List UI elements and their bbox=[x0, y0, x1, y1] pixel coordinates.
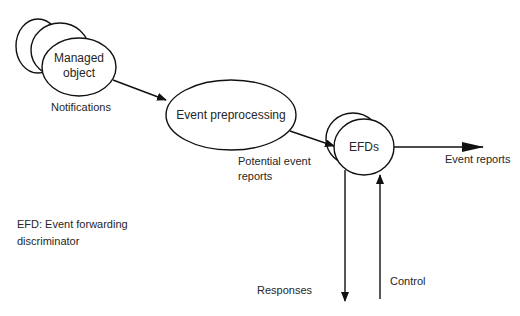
responses-label: Responses bbox=[257, 283, 312, 298]
legend: EFD: Event forwarding discriminator bbox=[17, 216, 128, 250]
potential-event-reports-line1: Potential event bbox=[238, 154, 311, 169]
legend-line1: EFD: Event forwarding bbox=[17, 216, 128, 233]
potential-event-reports-label: Potential event reports bbox=[238, 154, 311, 184]
legend-line2: discriminator bbox=[17, 233, 128, 250]
event-reports-label: Event reports bbox=[445, 152, 510, 167]
control-label: Control bbox=[390, 274, 425, 289]
managed-object-label-line2: object bbox=[48, 66, 110, 81]
managed-object-label: Managed object bbox=[48, 51, 110, 81]
notifications-arrow bbox=[113, 80, 166, 100]
managed-object-label-line1: Managed bbox=[48, 51, 110, 66]
efds-label: EFDs bbox=[344, 140, 384, 155]
potential-event-reports-line2: reports bbox=[238, 169, 311, 184]
notifications-label: Notifications bbox=[51, 100, 111, 115]
diagram-canvas: Managed object Event preprocessing EFDs … bbox=[0, 0, 520, 316]
event-preprocessing-label: Event preprocessing bbox=[176, 108, 286, 123]
